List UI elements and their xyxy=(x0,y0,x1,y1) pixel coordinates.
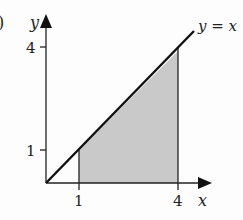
x-axis-arrow-icon xyxy=(198,177,212,189)
diagram-canvas: ) y x 4 1 1 4 y = x xyxy=(0,0,243,220)
panel-label-fragment: ) xyxy=(0,13,4,32)
y-axis-label: y xyxy=(29,13,40,32)
line-label: y = x xyxy=(197,17,238,35)
x-tick-label-1: 1 xyxy=(74,192,84,210)
y-tick-label-4: 4 xyxy=(26,39,36,57)
y-tick-label-1: 1 xyxy=(26,142,36,160)
y-axis-arrow-icon xyxy=(40,14,52,28)
x-tick-label-4: 4 xyxy=(173,192,183,210)
shaded-region xyxy=(79,51,178,183)
x-axis-label: x xyxy=(198,191,207,210)
